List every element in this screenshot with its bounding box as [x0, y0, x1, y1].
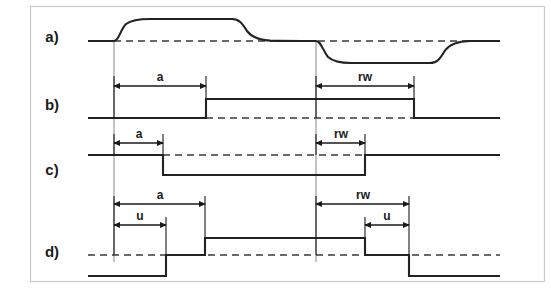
panel-d-interval-rw: rw — [316, 188, 409, 255]
panel-c-interval-rw-text: rw — [334, 127, 349, 141]
panel-b-interval-a: a — [114, 70, 206, 118]
panel-b-label: b) — [45, 96, 59, 113]
timing-diagram-canvas: a) b) a rw — [0, 0, 551, 292]
panel-c-interval-a: a — [114, 127, 163, 155]
panel-c-interval-rw: rw — [316, 127, 365, 155]
panel-d-interval-a: a — [114, 188, 205, 255]
figure-border — [31, 7, 545, 282]
panel-c-waveform — [88, 155, 500, 175]
panel-c-label: c) — [45, 161, 58, 178]
panel-d-interval-rw-text: rw — [356, 188, 371, 202]
panel-d-interval-u-left-text: u — [136, 209, 143, 223]
panel-b-interval-rw: rw — [316, 70, 414, 118]
timing-diagram-figure: a) b) a rw — [0, 0, 551, 292]
panel-d-interval-u-right: u — [365, 209, 409, 238]
panel-c-interval-a-text: a — [136, 127, 143, 141]
panel-b-waveform — [88, 99, 500, 118]
panel-d-waveform — [88, 238, 500, 276]
panel-d: d) a u rw — [45, 188, 500, 276]
panel-b-interval-a-text: a — [157, 70, 164, 84]
panel-d-label: d) — [45, 243, 59, 260]
panel-b: b) a rw — [45, 70, 500, 118]
panel-d-interval-a-text: a — [157, 188, 164, 202]
reference-guides — [114, 41, 316, 262]
panel-a-label: a) — [45, 28, 58, 45]
panel-d-interval-u-left: u — [114, 209, 166, 255]
panel-d-interval-u-right-text: u — [383, 209, 390, 223]
panel-b-interval-rw-text: rw — [358, 70, 373, 84]
